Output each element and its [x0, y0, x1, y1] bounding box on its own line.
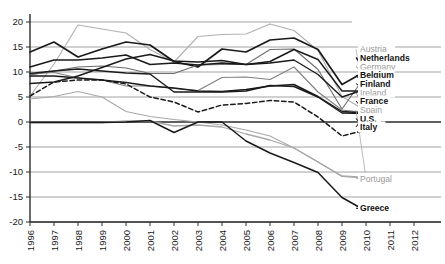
- xtick-label-2007: 2007: [289, 230, 300, 251]
- series-line-france[interactable]: [30, 76, 366, 113]
- xtick-label-2008: 2008: [313, 230, 324, 251]
- series-line-spain[interactable]: [30, 92, 366, 179]
- xtick-label-1999: 1999: [97, 230, 108, 251]
- xtick-label-1996: 1996: [25, 230, 36, 251]
- xtick-label-2000: 2000: [121, 230, 132, 251]
- series-line-portugal[interactable]: [30, 121, 366, 178]
- ytick-label--15: -15: [9, 191, 23, 202]
- ytick-label--10: -10: [9, 166, 23, 177]
- xtick-label-1997: 1997: [49, 230, 60, 251]
- ytick-label-20: 20: [12, 16, 23, 27]
- xtick-label-2012: 2012: [409, 230, 420, 251]
- ytick-label-15: 15: [12, 41, 23, 52]
- xtick-label-2005: 2005: [241, 230, 252, 251]
- xtick-label-2001: 2001: [145, 230, 156, 251]
- ytick-label--20: -20: [9, 216, 23, 227]
- xtick-label-2002: 2002: [169, 230, 180, 251]
- series-line-us[interactable]: [30, 80, 366, 136]
- ytick-label-5: 5: [18, 91, 23, 102]
- ytick-label-10: 10: [12, 66, 23, 77]
- xtick-label-2006: 2006: [265, 230, 276, 251]
- ytick-label--5: -5: [15, 141, 23, 152]
- xtick-label-1998: 1998: [73, 230, 84, 251]
- xtick-label-2009: 2009: [337, 230, 348, 251]
- line-chart: 20151050-5-10-15-20199619971998199920002…: [0, 0, 445, 264]
- xtick-label-2003: 2003: [193, 230, 204, 251]
- series-line-greece[interactable]: [30, 121, 366, 212]
- chart-canvas: 20151050-5-10-15-20199619971998199920002…: [0, 0, 445, 264]
- xtick-label-2010: 2010: [361, 230, 372, 251]
- xtick-label-2004: 2004: [217, 230, 228, 251]
- ytick-label-0: 0: [18, 116, 23, 127]
- legend-label-portugal[interactable]: Portugal: [360, 174, 392, 184]
- legend-label-italy[interactable]: Italy: [360, 122, 377, 132]
- legend-label-greece[interactable]: Greece: [360, 203, 389, 213]
- xtick-label-2011: 2011: [385, 230, 396, 250]
